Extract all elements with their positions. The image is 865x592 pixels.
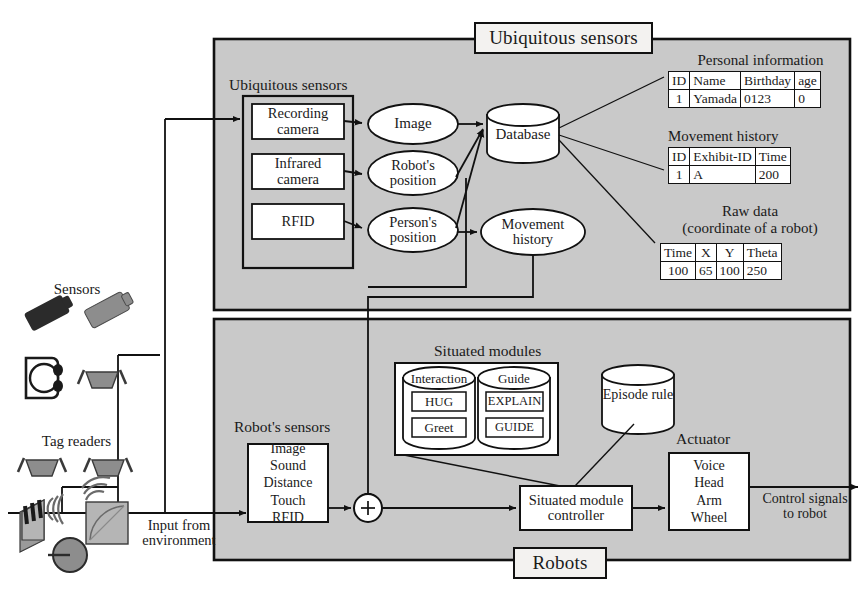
th-name: Name xyxy=(690,72,741,90)
table-header-row: ID Exhibit-ID Time xyxy=(669,148,791,166)
guide-action-label: GUIDE xyxy=(486,418,543,437)
td-x: 65 xyxy=(696,262,717,280)
situated-modules-title: Situated modules xyxy=(434,342,541,360)
interaction-module-label: Interaction xyxy=(403,369,475,388)
td-exhibit-id: A xyxy=(690,166,756,184)
tag-reader-icon-1 xyxy=(18,458,66,476)
input-from-environment-label: Input from environment xyxy=(120,518,238,548)
top-panel-banner-label: Ubiquitous sensors xyxy=(489,27,638,49)
th-exhibit-id: Exhibit-ID xyxy=(690,148,756,166)
th-id: ID xyxy=(669,72,690,90)
sensors-legend-title: Sensors xyxy=(22,282,132,298)
th-theta: Theta xyxy=(743,244,781,262)
td-time: 100 xyxy=(661,262,696,280)
rfid-label: RFID xyxy=(252,204,344,239)
td-birthday: 0123 xyxy=(740,90,794,108)
omni-camera-icon xyxy=(26,358,63,398)
th-birthday: Birthday xyxy=(740,72,794,90)
hug-label: HUG xyxy=(412,392,466,411)
td-y: 100 xyxy=(716,262,743,280)
table-row: 100 65 100 250 xyxy=(661,262,782,280)
rfid-tag-block-icon xyxy=(20,500,44,552)
person-position-label: Person's position xyxy=(368,212,458,248)
bottom-panel-banner: Robots xyxy=(513,547,607,579)
ubiquitous-sensors-group-title: Ubiquitous sensors xyxy=(229,76,347,94)
movement-history-label: Movement history xyxy=(481,214,585,250)
episode-rule-label: Episode rule xyxy=(602,377,674,413)
td-id: 1 xyxy=(669,90,690,108)
bottom-panel-banner-label: Robots xyxy=(532,552,587,574)
th-y: Y xyxy=(716,244,743,262)
th-age: age xyxy=(795,72,821,90)
movement-history-caption: Movement history xyxy=(668,128,833,145)
actuator-list: Voice Head Arm Wheel xyxy=(669,453,749,530)
recording-camera-label: Recording camera xyxy=(252,104,344,139)
personal-information-table: ID Name Birthday age 1 Yamada 0123 0 xyxy=(668,71,821,108)
raw-data-caption: Raw data (coordinate of a robot) xyxy=(655,203,845,237)
movement-history-table: ID Exhibit-ID Time 1 A 200 xyxy=(668,147,791,184)
th-id: ID xyxy=(669,148,690,166)
top-panel-banner: Ubiquitous sensors xyxy=(474,22,653,54)
td-theta: 250 xyxy=(743,262,781,280)
td-id: 1 xyxy=(669,166,690,184)
td-time: 200 xyxy=(755,166,790,184)
th-x: X xyxy=(696,244,717,262)
rfid-wave-large-icon xyxy=(82,477,110,500)
personal-information-caption: Personal information xyxy=(668,52,853,69)
actuator-title: Actuator xyxy=(676,430,730,448)
th-time: Time xyxy=(755,148,790,166)
table-header-row: ID Name Birthday age xyxy=(669,72,821,90)
td-name: Yamada xyxy=(690,90,741,108)
table-header-row: Time X Y Theta xyxy=(661,244,782,262)
image-label: Image xyxy=(368,109,458,139)
tag-readers-legend-title: Tag readers xyxy=(14,434,139,450)
guide-module-label: Guide xyxy=(478,369,550,388)
greet-label: Greet xyxy=(412,418,466,437)
table-row: 1 Yamada 0123 0 xyxy=(669,90,821,108)
control-signals-label: Control signals to robot xyxy=(752,492,858,521)
infrared-camera-label: Infrared camera xyxy=(252,154,344,189)
td-age: 0 xyxy=(795,90,821,108)
robot-sensors-list: Image Sound Distance Touch RFID xyxy=(248,444,328,522)
situated-module-controller-label: Situated module controller xyxy=(520,486,632,530)
raw-data-table: Time X Y Theta 100 65 100 250 xyxy=(660,243,782,280)
tag-reader-icon-2 xyxy=(84,458,132,476)
robot-sensors-title: Robot's sensors xyxy=(234,418,330,436)
table-row: 1 A 200 xyxy=(669,166,791,184)
th-time: Time xyxy=(661,244,696,262)
robot-position-label: Robot's position xyxy=(368,155,458,191)
database-label: Database xyxy=(487,115,559,155)
rfid-wave-small-icon xyxy=(48,494,63,524)
rfid-tag-disc-icon xyxy=(48,538,87,572)
explain-label: EXPLAIN xyxy=(486,392,543,411)
figure-canvas: Ubiquitous sensors Robots Ubiquitous sen… xyxy=(0,0,865,592)
